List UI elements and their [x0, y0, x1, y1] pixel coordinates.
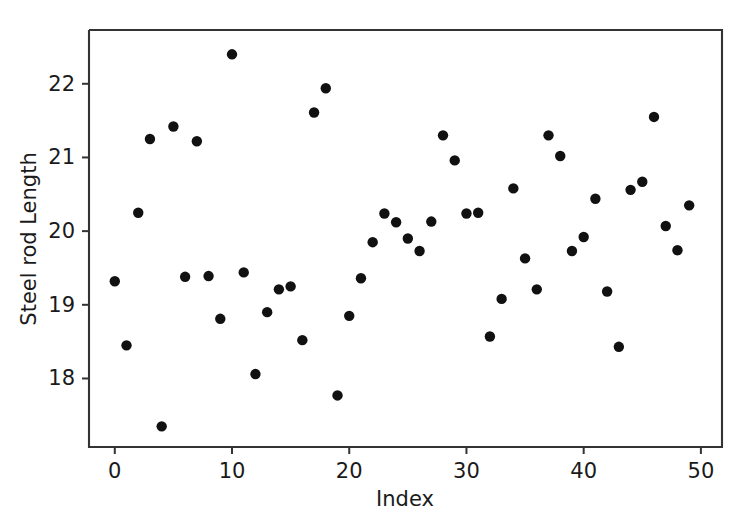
plot-canvas: 01020304050 1819202122 Index Steel rod L… [0, 0, 744, 523]
x-axis-ticks: 01020304050 [108, 447, 714, 483]
data-point [590, 194, 600, 204]
y-axis-ticks: 1819202122 [48, 72, 89, 391]
data-point [168, 121, 178, 131]
x-tick-label: 20 [336, 459, 363, 483]
x-tick-label: 50 [688, 459, 715, 483]
data-point [274, 284, 284, 294]
data-point [578, 232, 588, 242]
data-point [297, 335, 307, 345]
y-axis-title: Steel rod Length [17, 152, 41, 325]
data-point [438, 130, 448, 140]
data-point [426, 216, 436, 226]
data-point [496, 294, 506, 304]
x-tick-label: 30 [453, 459, 480, 483]
data-point [391, 217, 401, 227]
x-tick-label: 10 [219, 459, 246, 483]
data-point [121, 340, 131, 350]
data-point [532, 284, 542, 294]
data-point [309, 107, 319, 117]
data-point [239, 267, 249, 277]
y-tick-label: 19 [48, 293, 75, 317]
data-point [461, 208, 471, 218]
data-point [262, 307, 272, 317]
data-point [332, 390, 342, 400]
scatter-plot-figure: 01020304050 1819202122 Index Steel rod L… [0, 0, 744, 523]
data-point [379, 208, 389, 218]
y-tick-label: 22 [48, 72, 75, 96]
data-point [250, 369, 260, 379]
data-point [602, 286, 612, 296]
data-point [227, 49, 237, 59]
y-tick-label: 21 [48, 145, 75, 169]
data-point [637, 177, 647, 187]
data-point [356, 273, 366, 283]
data-point [145, 134, 155, 144]
data-point-layer [110, 49, 695, 431]
data-point [661, 221, 671, 231]
data-point [473, 208, 483, 218]
data-point [321, 83, 331, 93]
data-point [110, 276, 120, 286]
x-tick-label: 40 [570, 459, 597, 483]
data-point [567, 246, 577, 256]
data-point [450, 155, 460, 165]
data-point [508, 183, 518, 193]
data-point [215, 314, 225, 324]
data-point [414, 246, 424, 256]
data-point [192, 136, 202, 146]
data-point [285, 281, 295, 291]
data-point [555, 151, 565, 161]
y-tick-label: 20 [48, 219, 75, 243]
x-tick-label: 0 [108, 459, 121, 483]
data-point [684, 200, 694, 210]
data-point [520, 253, 530, 263]
data-point [614, 342, 624, 352]
data-point [156, 421, 166, 431]
data-point [649, 112, 659, 122]
data-point [203, 271, 213, 281]
data-point [344, 311, 354, 321]
data-point [485, 331, 495, 341]
data-point [133, 208, 143, 218]
data-point [367, 237, 377, 247]
x-axis-title: Index [376, 487, 434, 511]
data-point [403, 233, 413, 243]
data-point [180, 272, 190, 282]
data-point [625, 185, 635, 195]
y-tick-label: 18 [48, 366, 75, 390]
data-point [672, 245, 682, 255]
data-point [543, 130, 553, 140]
